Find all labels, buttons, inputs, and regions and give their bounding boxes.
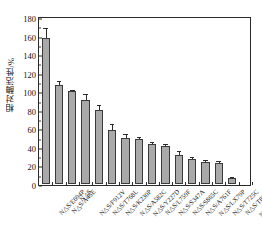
y-tick-label: 140 xyxy=(23,51,36,61)
y-axis-label: 相对酶活性/% xyxy=(4,58,18,112)
x-tick-mark xyxy=(66,182,67,185)
x-tick-mark xyxy=(79,182,80,185)
y-tick-mark xyxy=(39,19,42,20)
bar xyxy=(175,155,183,184)
bar xyxy=(108,130,116,184)
error-bar xyxy=(205,161,206,162)
y-tick-label: 180 xyxy=(23,14,36,24)
error-bar-cap xyxy=(137,137,142,138)
y-tick-label: 100 xyxy=(23,88,36,98)
x-tick-mark xyxy=(119,182,120,185)
error-bar-cap xyxy=(97,105,102,106)
error-bar xyxy=(46,29,47,38)
x-tick-mark xyxy=(146,182,147,185)
error-bar-cap xyxy=(83,94,88,95)
x-tick-mark xyxy=(212,182,213,185)
error-bar xyxy=(219,162,220,163)
error-bar xyxy=(99,106,100,110)
bar xyxy=(201,162,209,184)
y-tick-label: 160 xyxy=(23,33,36,43)
error-bar-cap xyxy=(70,90,75,91)
error-bar xyxy=(192,158,193,160)
x-tick-mark xyxy=(239,182,240,185)
bar xyxy=(55,85,63,184)
error-bar xyxy=(232,178,233,179)
error-bar xyxy=(179,152,180,154)
bar xyxy=(95,110,103,184)
y-tick-label: 20 xyxy=(28,162,37,172)
error-bar xyxy=(139,138,140,140)
error-bar xyxy=(112,125,113,130)
error-bar xyxy=(152,143,153,144)
bar xyxy=(148,144,156,184)
error-bar-cap xyxy=(150,142,155,143)
bar xyxy=(81,100,89,184)
error-bar xyxy=(59,82,60,85)
y-tick-label: 40 xyxy=(28,144,37,154)
bar xyxy=(188,159,196,184)
x-tick-mark xyxy=(159,182,160,185)
x-tick-mark xyxy=(132,182,133,185)
bar xyxy=(135,139,143,184)
bar xyxy=(121,138,129,184)
error-bar-cap xyxy=(163,144,168,145)
error-bar xyxy=(86,95,87,100)
bar-chart-figure: 相对酶活性/% 020406080100120140160180 N△S/E69… xyxy=(0,0,262,242)
bar xyxy=(42,38,50,184)
plot-area: 020406080100120140160180 xyxy=(38,17,251,186)
x-tick-mark xyxy=(199,182,200,185)
y-tick-mark xyxy=(39,186,42,187)
x-tick-mark xyxy=(252,182,253,185)
error-bar xyxy=(126,135,127,138)
x-tick-mark xyxy=(172,182,173,185)
bar xyxy=(68,91,76,184)
x-tick-mark xyxy=(185,182,186,185)
error-bar-cap xyxy=(43,28,48,29)
error-bar-cap xyxy=(190,157,195,158)
bar xyxy=(161,146,169,185)
x-tick-mark xyxy=(225,182,226,185)
error-bar-cap xyxy=(177,151,182,152)
y-tick-label: 0 xyxy=(32,181,36,191)
error-bar-cap xyxy=(110,124,115,125)
error-bar-cap xyxy=(216,161,221,162)
y-tick-label: 80 xyxy=(28,107,37,117)
error-bar-cap xyxy=(57,81,62,82)
x-tick-mark xyxy=(106,182,107,185)
error-bar-cap xyxy=(230,177,235,178)
bar xyxy=(215,163,223,184)
x-tick-mark xyxy=(52,182,53,185)
error-bar-cap xyxy=(203,160,208,161)
y-tick-label: 60 xyxy=(28,125,37,135)
error-bar xyxy=(165,145,166,146)
y-tick-label: 120 xyxy=(23,70,36,80)
y-minor-tick-mark xyxy=(39,28,41,29)
bar xyxy=(228,178,236,184)
x-tick-mark xyxy=(92,182,93,185)
error-bar-cap xyxy=(123,134,128,135)
